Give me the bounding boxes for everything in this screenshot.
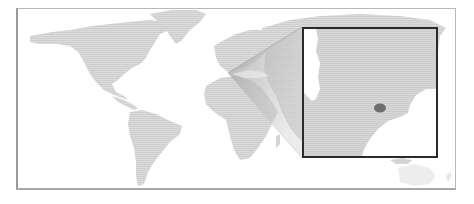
continent-australia — [398, 164, 436, 186]
island-madagascar — [276, 134, 280, 148]
continent-north-america — [30, 20, 170, 100]
continent-south-america — [128, 110, 182, 186]
inset-map — [304, 29, 436, 156]
inset-water-west — [304, 29, 320, 101]
island-indonesia — [390, 158, 412, 164]
island-new-zealand — [446, 172, 452, 182]
zoom-inset — [302, 27, 438, 158]
highlighted-region — [374, 104, 386, 113]
